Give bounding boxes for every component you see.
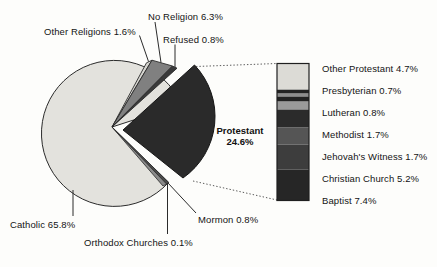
pie-label-other-religions: Other Religions 1.6% — [44, 26, 136, 37]
legend-item-presbyterian: Presbyterian 0.7% — [322, 85, 401, 96]
pie-label-protestant-name: Protestant — [206, 125, 274, 136]
pie-label-orthodox-churches: Orthodox Churches 0.1% — [84, 237, 193, 248]
bar-band-separator-1 — [277, 94, 309, 97]
pie-chart-figure: Other Religions 1.6% No Religion 6.3% Re… — [0, 0, 437, 267]
leader-line-other-religions — [140, 36, 149, 62]
pie-label-protestant: Protestant 24.6% — [206, 125, 274, 147]
bar-segment-methodist[interactable] — [277, 110, 309, 128]
bar-segment-christian-church[interactable] — [277, 145, 309, 170]
pie-label-no-religion: No Religion 6.3% — [148, 11, 223, 22]
bar-segment-other-protestant[interactable] — [277, 64, 309, 90]
leader-line-mormon — [168, 183, 196, 213]
leader-line-no-religion — [155, 22, 161, 63]
legend-item-other-protestant: Other Protestant 4.7% — [322, 63, 418, 74]
legend-item-lutheran: Lutheran 0.8% — [322, 107, 385, 118]
legend-item-christian-church: Christian Church 5.2% — [322, 173, 419, 184]
bar-band-separator-2 — [277, 97, 309, 102]
pie-label-protestant-value: 24.6% — [206, 136, 274, 147]
protestant-breakout-bar[interactable] — [277, 64, 309, 201]
bar-segment-baptist[interactable] — [277, 170, 309, 201]
connector-top-dotted — [196, 64, 277, 67]
bar-segment-jehovahs-witness[interactable] — [277, 128, 309, 145]
legend-item-baptist: Baptist 7.4% — [322, 195, 377, 206]
connector-bottom-dotted — [193, 181, 277, 200]
bar-segment-lutheran[interactable] — [277, 102, 309, 110]
bar-segment-presbyterian[interactable] — [277, 90, 309, 94]
legend-item-jehovahs-witness: Jehovah's Witness 1.7% — [322, 151, 427, 162]
pie-label-catholic: Catholic 65.8% — [10, 219, 75, 230]
legend-item-methodist: Methodist 1.7% — [322, 129, 389, 140]
pie-label-refused: Refused 0.8% — [163, 34, 224, 45]
pie-label-mormon: Mormon 0.8% — [198, 214, 258, 225]
